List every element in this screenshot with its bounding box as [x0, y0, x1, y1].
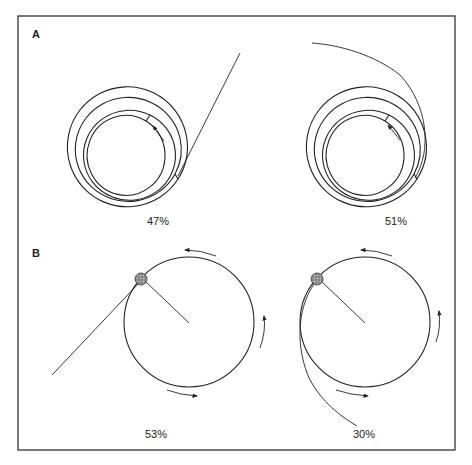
- arrow-icon: [388, 125, 400, 140]
- rotation-arrow-right: [260, 316, 265, 348]
- figure-frame: [18, 16, 455, 450]
- rotation-arrow-bottom: [167, 390, 197, 396]
- panel-label-b: B: [32, 247, 40, 259]
- ball-icon: [135, 273, 147, 285]
- exit-path-straight: [52, 284, 138, 375]
- rotation-arrow-right: [436, 311, 440, 342]
- figure: A B 47% 51%: [0, 0, 472, 465]
- spiral-right: [306, 87, 426, 207]
- rotation-arrow-bottom: [336, 390, 368, 396]
- arrow-icon: [153, 126, 164, 141]
- percent-label-30: 30%: [353, 428, 375, 440]
- percent-label-53: 53%: [145, 428, 167, 440]
- rotation-arrow-top: [185, 250, 216, 256]
- string-line: [321, 281, 365, 323]
- exit-path-straight: [178, 53, 240, 176]
- percent-label-47: 47%: [147, 215, 169, 227]
- rotation-arrow-top: [361, 250, 392, 256]
- percent-label-51: 51%: [385, 215, 407, 227]
- panel-label-a: A: [32, 28, 40, 40]
- spiral-left: [67, 87, 187, 207]
- ball-icon: [311, 273, 323, 285]
- circle-left: [52, 250, 265, 396]
- string-line: [145, 281, 189, 323]
- circle-right: [300, 250, 440, 426]
